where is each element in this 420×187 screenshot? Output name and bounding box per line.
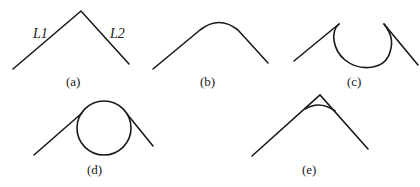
caption-e: (e) <box>302 163 316 176</box>
panel-c-right-line <box>384 24 418 65</box>
panel-c-loop <box>294 24 418 68</box>
panel-b-curve <box>153 23 268 70</box>
panel-d-circle-shape <box>77 101 131 155</box>
caption-c: (c) <box>347 75 361 88</box>
panel-d-circle <box>34 101 153 155</box>
label-l1: L1 <box>33 27 48 41</box>
panel-e-corner-arc <box>252 95 368 156</box>
panel-e-lines <box>252 95 368 156</box>
label-l2: L2 <box>110 27 125 41</box>
caption-a: (a) <box>66 75 80 88</box>
caption-d: (d) <box>87 163 102 176</box>
panel-c-arc <box>334 24 392 68</box>
diagram-canvas <box>0 0 420 187</box>
panel-d-left-line <box>34 113 82 155</box>
panel-c-left-line <box>294 24 339 61</box>
panel-b-fillet <box>153 23 268 70</box>
caption-b: (b) <box>200 75 215 88</box>
